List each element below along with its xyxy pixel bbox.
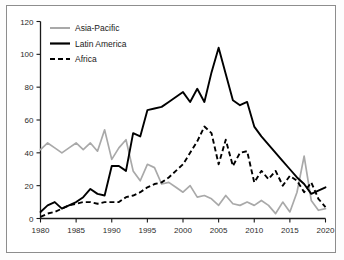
chart-legend: Asia-PacificLatin AmericaAfrica: [50, 23, 127, 64]
x-tick-label: 2020: [317, 226, 335, 235]
x-tick-label: 2010: [245, 226, 263, 235]
y-tick-label: 120: [20, 18, 34, 27]
legend-label-asia-pacific: Asia-Pacific: [75, 23, 120, 33]
series-lines: [41, 48, 326, 217]
series-line-asia-pacific: [41, 130, 326, 214]
x-axis-ticks: 198019851990199520002005201020152020: [32, 219, 335, 235]
y-tick-label: 40: [25, 149, 34, 158]
figure-container: 020406080100120 198019851990199520002005…: [0, 0, 344, 260]
x-tick-label: 1980: [32, 226, 50, 235]
legend-label-latin-america: Latin America: [75, 39, 127, 49]
x-tick-label: 1985: [67, 226, 85, 235]
x-tick-label: 1990: [103, 226, 121, 235]
y-tick-label: 80: [25, 83, 34, 92]
x-tick-label: 2015: [281, 226, 299, 235]
y-tick-label: 0: [29, 215, 34, 224]
line-chart: 020406080100120 198019851990199520002005…: [0, 0, 344, 260]
x-tick-label: 2000: [174, 226, 192, 235]
y-tick-label: 20: [25, 182, 34, 191]
series-line-latin-america: [41, 48, 326, 212]
axis-lines: [41, 22, 326, 219]
x-tick-label: 1995: [138, 226, 156, 235]
y-tick-label: 60: [25, 116, 34, 125]
legend-label-africa: Africa: [75, 54, 97, 64]
y-axis-ticks: 020406080100120: [20, 18, 40, 224]
y-tick-label: 100: [20, 50, 34, 59]
x-tick-label: 2005: [210, 226, 228, 235]
